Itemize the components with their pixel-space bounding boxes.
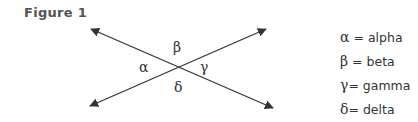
angle-label-delta: δ xyxy=(174,79,182,95)
angle-label-beta: β xyxy=(173,39,181,55)
angle-label-gamma: γ xyxy=(200,59,208,75)
legend-item-alpha: α = alpha xyxy=(340,27,410,51)
legend-item-delta: δ= delta xyxy=(340,99,410,122)
legend-item-gamma: γ= gamma xyxy=(340,75,410,99)
legend-item-beta: β = beta xyxy=(340,51,410,75)
line-1 xyxy=(91,29,273,108)
legend: α = alpha β = beta γ= gamma δ= delta xyxy=(340,27,410,122)
angle-label-alpha: α xyxy=(139,59,149,75)
